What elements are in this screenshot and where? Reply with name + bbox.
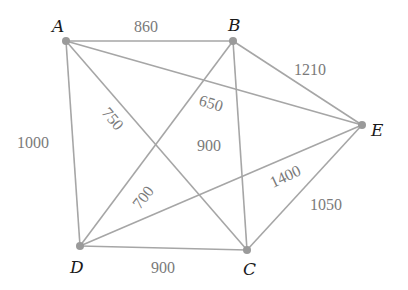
edge-C-E — [247, 125, 362, 250]
weight-B-C: 900 — [197, 137, 221, 154]
edge-A-D — [66, 41, 80, 246]
edge-B-C — [233, 41, 247, 250]
weight-A-C: 750 — [99, 104, 127, 133]
edge-D-E — [80, 125, 362, 246]
node-A — [62, 37, 70, 45]
weight-D-E: 1400 — [267, 162, 303, 191]
weight-A-E: 650 — [197, 92, 225, 115]
weight-A-B: 860 — [134, 18, 158, 35]
node-E — [358, 121, 366, 129]
weight-B-D: 700 — [129, 182, 157, 211]
node-C — [243, 246, 251, 254]
edge-B-E — [233, 41, 362, 125]
node-label-A: A — [50, 16, 64, 36]
node-label-B: B — [227, 15, 241, 35]
node-B — [229, 37, 237, 45]
node-D — [76, 242, 84, 250]
weight-A-D: 1000 — [17, 134, 49, 151]
weight-C-E: 1050 — [310, 196, 342, 213]
node-label-D: D — [69, 257, 84, 277]
weighted-graph-diagram: A B E D C 860 1000 750 650 1210 900 700 … — [0, 0, 408, 290]
node-label-E: E — [370, 120, 384, 140]
node-label-C: C — [243, 259, 256, 279]
weight-B-E: 1210 — [294, 61, 326, 78]
edge-D-C — [80, 246, 247, 250]
weight-D-C: 900 — [151, 259, 175, 276]
